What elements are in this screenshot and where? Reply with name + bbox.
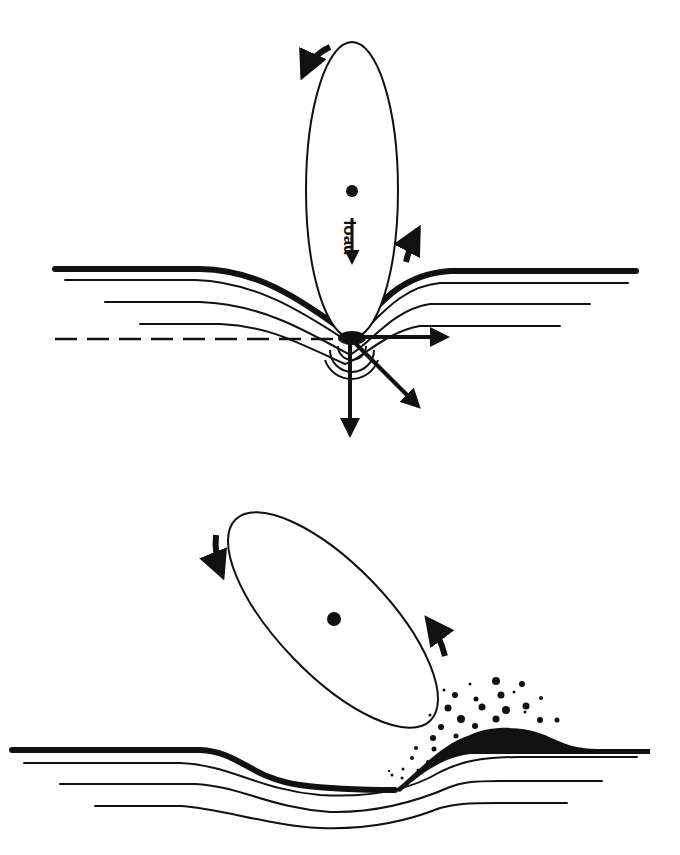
rotation-arrow-left [216, 535, 222, 575]
bottom-panel [12, 481, 650, 828]
force-vector-arrows [350, 337, 446, 434]
rotation-arrow-right [406, 230, 418, 262]
grooved-surface-layers [12, 750, 637, 828]
top-panel: load [55, 42, 636, 434]
load-label: load [340, 221, 359, 256]
center-of-mass-dot [346, 185, 358, 197]
diagonal-force-arrow [352, 340, 418, 406]
rotation-arrow-right [428, 620, 445, 656]
diagram-canvas: load [0, 0, 680, 855]
center-of-mass-dot [327, 612, 341, 626]
